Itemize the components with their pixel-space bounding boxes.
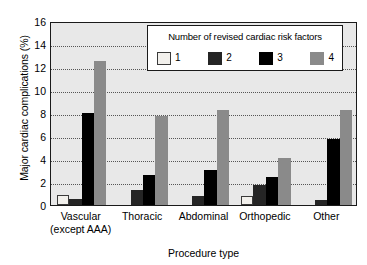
bar [327,139,339,205]
legend-label: 1 [175,53,181,63]
bar [253,185,265,205]
y-tick-label: 2 [2,177,46,189]
y-tick-label: 14 [2,39,46,51]
x-axis-tick-labels: Vascular(except AAA)ThoracicAbdominalOrt… [50,210,357,244]
bar [192,196,204,205]
x-tick-label-line1: Abdominal [179,210,229,222]
y-tick-label: 6 [2,131,46,143]
legend-title: Number of revised cardiac risk factors [148,31,342,42]
legend-label: 3 [277,53,283,63]
x-tick-label: Orthopedic [239,210,290,223]
bar [69,199,81,205]
legend-label: 2 [226,53,232,63]
bar [131,190,143,205]
y-tick-label: 4 [2,154,46,166]
bar [57,195,69,205]
bar [241,196,253,205]
legend-swatch-icon [310,52,324,65]
x-axis-title: Procedure type [50,247,357,259]
bar [315,200,327,205]
legend-swatch-icon [259,52,273,65]
bar [278,158,290,205]
legend: Number of revised cardiac risk factors 1… [147,25,343,71]
x-tick-label: Thoracic [122,210,162,223]
x-tick-label: Other [313,210,339,223]
legend-swatch-icon [208,52,222,65]
bar-group [51,23,112,205]
y-tick-label: 10 [2,85,46,97]
legend-entry: 4 [310,52,334,65]
legend-entries: 1234 [157,49,334,67]
y-tick-label: 12 [2,62,46,74]
legend-swatch-icon [157,52,171,65]
legend-entry: 2 [208,52,232,65]
bar [82,113,94,205]
bar [94,61,106,205]
y-tick-label: 16 [2,16,46,28]
bar [217,110,229,205]
bar [340,110,352,205]
x-tick-label-line1: Thoracic [122,210,162,222]
x-tick-label-line2: (except AAA) [50,223,111,236]
bar [143,175,155,205]
legend-label: 4 [328,53,334,63]
x-tick-label-line1: Vascular [61,210,101,222]
y-axis-tick-labels: 0246810121416 [0,0,46,265]
x-tick-label-line1: Other [313,210,339,222]
legend-entry: 3 [259,52,283,65]
x-tick-label: Abdominal [179,210,229,223]
x-tick-label-line1: Orthopedic [239,210,290,222]
y-tick-label: 8 [2,108,46,120]
x-tick-label: Vascular(except AAA) [50,210,111,236]
bar [266,177,278,205]
legend-entry: 1 [157,52,181,65]
bar [155,116,167,205]
bar-chart-figure: Major cardiac complications (%) 02468101… [0,0,367,265]
y-tick-label: 0 [2,200,46,212]
bar [204,170,216,205]
